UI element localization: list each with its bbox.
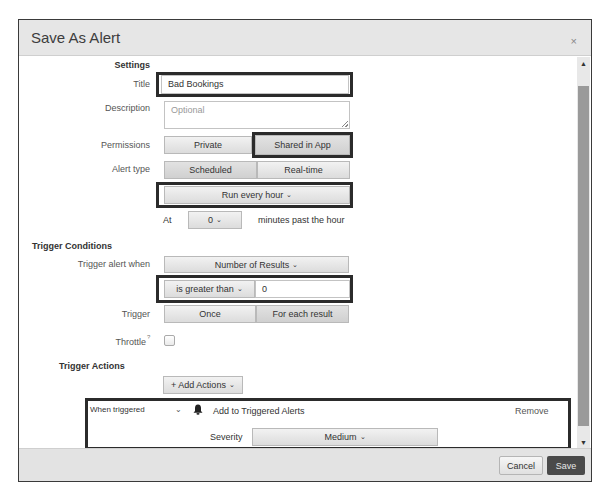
trigger-when-label: Trigger alert when xyxy=(50,259,150,269)
scroll-up-icon[interactable]: ▲ xyxy=(577,60,590,67)
add-actions-label: + Add Actions xyxy=(171,380,226,390)
minute-value: 0 xyxy=(208,215,213,225)
action-name: Add to Triggered Alerts xyxy=(213,406,305,416)
chevron-down-icon: ⌄ xyxy=(229,381,235,389)
schedule-dropdown[interactable]: Run every hour ⌄ xyxy=(164,186,350,204)
permission-shared-button[interactable]: Shared in App xyxy=(255,135,350,155)
trigger-when-value: Number of Results xyxy=(215,260,290,270)
resize-grip-icon[interactable] xyxy=(342,121,348,127)
expand-chevron-icon[interactable]: ⌄ xyxy=(175,405,182,414)
chevron-down-icon: ⌄ xyxy=(360,433,366,441)
at-label: At xyxy=(163,215,172,225)
minutes-suffix: minutes past the hour xyxy=(258,215,345,225)
description-textarea[interactable]: Optional xyxy=(164,101,350,129)
description-label: Description xyxy=(50,103,150,113)
alert-type-realtime-button[interactable]: Real-time xyxy=(257,161,350,179)
chevron-down-icon: ⌄ xyxy=(286,191,292,199)
save-as-alert-dialog: Save As Alert × Settings Title Bad Booki… xyxy=(18,19,592,482)
when-triggered-label: When triggered xyxy=(90,405,145,414)
scroll-thumb[interactable] xyxy=(578,86,589,426)
vertical-scrollbar[interactable]: ▲ ▼ xyxy=(577,57,590,449)
throttle-checkbox[interactable] xyxy=(164,335,175,346)
bell-icon xyxy=(193,404,203,415)
chevron-down-icon: ⌄ xyxy=(237,285,243,293)
schedule-value: Run every hour xyxy=(222,190,284,200)
throttle-help-icon[interactable]: ? xyxy=(147,334,150,340)
comparator-dropdown[interactable]: is greater than ⌄ xyxy=(164,280,255,298)
settings-section-label: Settings xyxy=(104,60,150,70)
save-button[interactable]: Save xyxy=(547,456,585,475)
trigger-each-result-button[interactable]: For each result xyxy=(256,305,349,323)
trigger-when-dropdown[interactable]: Number of Results ⌄ xyxy=(164,256,349,273)
dialog-footer: Cancel Save xyxy=(19,448,591,481)
trigger-actions-section-label: Trigger Actions xyxy=(59,361,125,371)
throttle-label: Throttle xyxy=(46,337,146,347)
dialog-content: Settings Title Bad Bookings Description … xyxy=(19,56,591,449)
alert-type-scheduled-button[interactable]: Scheduled xyxy=(164,161,257,179)
threshold-input[interactable]: 0 xyxy=(255,280,350,298)
dialog-title: Save As Alert xyxy=(31,29,120,46)
minute-dropdown[interactable]: 0 ⌄ xyxy=(188,211,242,229)
title-label: Title xyxy=(50,79,150,89)
severity-dropdown[interactable]: Medium ⌄ xyxy=(252,428,438,446)
add-actions-button[interactable]: + Add Actions ⌄ xyxy=(163,376,243,394)
permissions-label: Permissions xyxy=(50,140,150,150)
trigger-conditions-section-label: Trigger Conditions xyxy=(32,241,112,251)
permission-private-button[interactable]: Private xyxy=(164,136,252,154)
dialog-header: Save As Alert × xyxy=(19,20,591,56)
severity-label: Severity xyxy=(210,432,243,442)
cancel-button[interactable]: Cancel xyxy=(499,456,543,475)
scroll-down-icon[interactable]: ▼ xyxy=(577,439,590,446)
severity-value: Medium xyxy=(324,432,356,442)
close-icon[interactable]: × xyxy=(571,35,577,47)
trigger-label: Trigger xyxy=(50,309,150,319)
comparator-value: is greater than xyxy=(176,284,234,294)
trigger-once-button[interactable]: Once xyxy=(164,305,256,323)
remove-action-link[interactable]: Remove xyxy=(515,406,549,416)
alert-type-label: Alert type xyxy=(50,164,150,174)
chevron-down-icon: ⌄ xyxy=(292,261,298,269)
title-input[interactable]: Bad Bookings xyxy=(161,75,349,94)
chevron-down-icon: ⌄ xyxy=(216,216,222,224)
